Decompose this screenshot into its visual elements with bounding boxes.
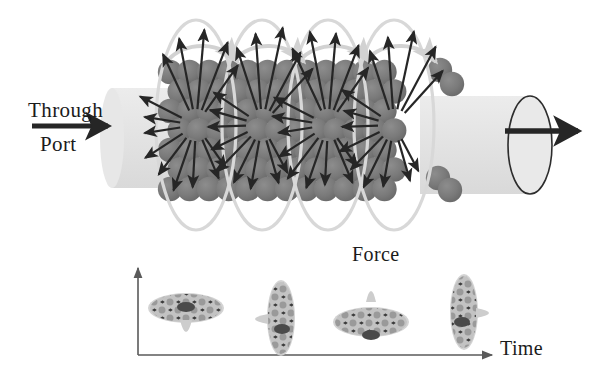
force-vector	[208, 126, 246, 127]
timeline-objects	[148, 274, 489, 356]
bed-particle	[440, 72, 464, 96]
label-port: Port	[40, 132, 77, 157]
timeline-item	[450, 274, 489, 350]
diagram-svg	[0, 0, 593, 381]
timeline-item	[148, 293, 224, 332]
force-vector	[397, 31, 414, 109]
label-through: Through	[28, 98, 103, 123]
force-vector	[342, 126, 378, 127]
figure-canvas: Through Port Force Time	[0, 0, 593, 381]
timeline-item	[255, 280, 295, 356]
timeline-item	[333, 291, 409, 340]
label-force: Force	[352, 243, 400, 266]
bed-particle	[438, 178, 462, 202]
label-time: Time	[500, 337, 543, 360]
